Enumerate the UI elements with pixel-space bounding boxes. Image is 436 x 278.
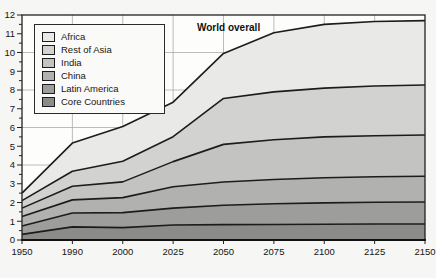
legend-item: Latin America: [42, 82, 154, 95]
x-tick-label: 2150: [414, 246, 435, 257]
x-tick-label: 2125: [364, 246, 385, 257]
legend-item: Rest of Asia: [42, 43, 154, 56]
x-tick-label: 2075: [263, 246, 284, 257]
y-tick-label: 6: [10, 122, 15, 133]
legend-item: Africa: [42, 30, 154, 43]
legend-swatch: [42, 32, 55, 42]
legend-swatch: [42, 84, 55, 94]
legend-item-label: Africa: [61, 30, 85, 43]
legend-item-label: Core Countries: [61, 95, 125, 108]
chart-legend: AfricaRest of AsiaIndiaChinaLatin Americ…: [34, 24, 165, 114]
legend-item: India: [42, 56, 154, 69]
y-tick-label: 2: [10, 197, 15, 208]
y-tick-label: 12: [4, 9, 15, 20]
y-tick-label: 9: [10, 66, 15, 77]
legend-item: China: [42, 69, 154, 82]
legend-item-label: Latin America: [61, 82, 119, 95]
x-tick-label: 2050: [213, 246, 234, 257]
y-tick-label: 4: [10, 159, 15, 170]
x-tick-label: 2100: [314, 246, 335, 257]
chart-stage: 0123456789101112195019902000202520502075…: [0, 0, 436, 278]
legend-swatch: [42, 97, 55, 107]
legend-item-label: India: [61, 56, 82, 69]
x-tick-label: 2000: [112, 246, 133, 257]
x-tick-label: 1990: [62, 246, 83, 257]
legend-item: Core Countries: [42, 95, 154, 108]
y-tick-label: 7: [10, 103, 15, 114]
y-tick-label: 0: [10, 234, 15, 245]
x-tick-label: 2025: [163, 246, 184, 257]
legend-swatch: [42, 71, 55, 81]
y-tick-label: 8: [10, 84, 15, 95]
y-tick-label: 10: [4, 47, 15, 58]
legend-items: AfricaRest of AsiaIndiaChinaLatin Americ…: [42, 30, 154, 108]
y-tick-label: 1: [10, 216, 15, 227]
world-overall-annotation: World overall: [197, 22, 260, 33]
legend-swatch: [42, 45, 55, 55]
legend-swatch: [42, 58, 55, 68]
y-tick-label: 11: [5, 28, 15, 39]
x-tick-label: 1950: [11, 246, 32, 257]
legend-item-label: China: [61, 69, 86, 82]
y-tick-label: 5: [10, 141, 15, 152]
y-tick-label: 3: [10, 178, 15, 189]
legend-item-label: Rest of Asia: [61, 43, 112, 56]
